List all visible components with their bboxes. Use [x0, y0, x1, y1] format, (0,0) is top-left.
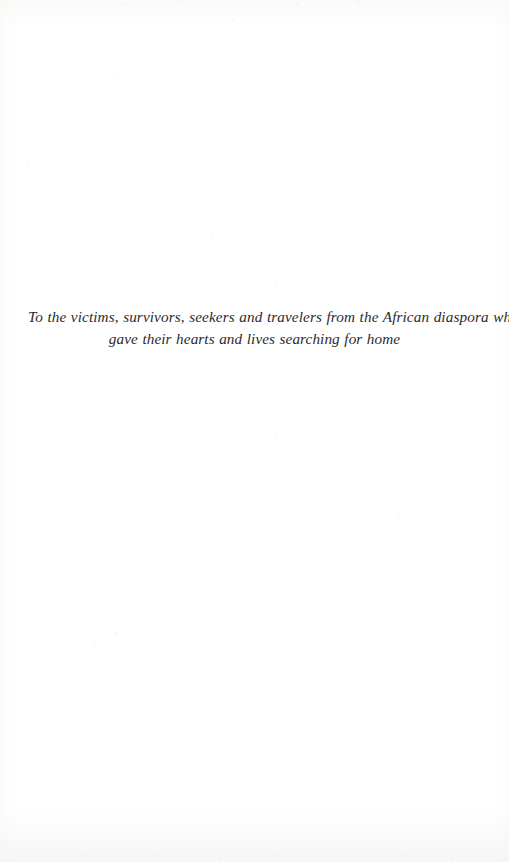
- dedication-line-2: gave their hearts and lives searching fo…: [28, 328, 481, 350]
- page-scan-speckles: [0, 0, 509, 862]
- dedication-page: To the victims, survivors, seekers and t…: [0, 0, 509, 862]
- dedication-text: To the victims, survivors, seekers and t…: [0, 306, 509, 349]
- dedication-line-1: To the victims, survivors, seekers and t…: [28, 306, 481, 328]
- page-scan-tint: [0, 0, 509, 862]
